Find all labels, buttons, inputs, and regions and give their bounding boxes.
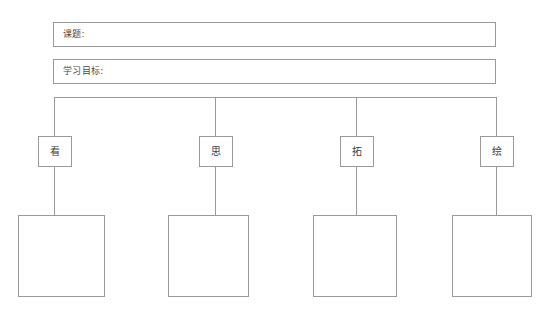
objective-field[interactable]: 学习目标: <box>53 59 496 84</box>
connector-bus-to-node-4 <box>496 97 497 136</box>
content-box-2[interactable] <box>168 215 249 297</box>
connector-node-4-to-content-4 <box>496 167 497 215</box>
content-box-1[interactable] <box>18 215 105 297</box>
connector-node-1-to-content-1 <box>54 167 55 215</box>
node-box-3[interactable]: 拓 <box>340 136 374 167</box>
topic-field-label: 课题: <box>54 30 85 39</box>
node-label-3: 拓 <box>352 147 362 157</box>
horizontal-connector <box>54 97 497 98</box>
worksheet-canvas: 课题: 学习目标: 看 思 拓 绘 <box>0 0 551 310</box>
node-box-4[interactable]: 绘 <box>480 136 514 167</box>
topic-field[interactable]: 课题: <box>53 22 496 47</box>
connector-bus-to-node-1 <box>54 97 55 136</box>
objective-field-label: 学习目标: <box>54 67 104 76</box>
node-label-1: 看 <box>50 147 60 157</box>
content-box-4[interactable] <box>452 215 532 297</box>
connector-bus-to-node-2 <box>215 97 216 136</box>
content-box-3[interactable] <box>313 215 397 297</box>
connector-bus-to-node-3 <box>356 97 357 136</box>
node-box-1[interactable]: 看 <box>38 136 72 167</box>
node-label-4: 绘 <box>492 147 502 157</box>
node-box-2[interactable]: 思 <box>199 136 233 167</box>
connector-node-2-to-content-2 <box>215 167 216 215</box>
node-label-2: 思 <box>211 147 221 157</box>
connector-node-3-to-content-3 <box>356 167 357 215</box>
